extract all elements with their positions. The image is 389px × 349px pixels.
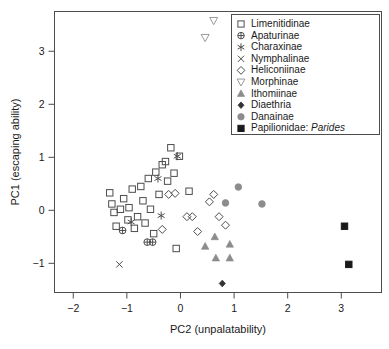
legend-item-label: Morphinae (251, 76, 299, 87)
legend-item-label: Papilionidae: Parides (251, 122, 345, 133)
legend[interactable]: LimenitidinaeApaturinaeCharaxinaeNymphal… (232, 15, 380, 135)
marker-filled-circle (235, 184, 242, 191)
legend-item-label: Apaturinae (251, 30, 300, 41)
y-tick-label: 2 (39, 98, 45, 110)
legend-item-label: Charaxinae (251, 41, 303, 52)
marker-filled-square (341, 223, 347, 229)
marker-circle-plus (149, 239, 156, 246)
marker-circle-plus (119, 227, 126, 234)
x-tick-label: −2 (67, 302, 79, 314)
marker-filled-circle (259, 201, 266, 208)
x-tick-label: −1 (121, 302, 133, 314)
y-tick-label: −1 (33, 257, 45, 269)
x-tick-label: 3 (338, 302, 344, 314)
x-axis-label: PC2 (unpalatability) (170, 323, 266, 335)
x-tick-label: 0 (178, 302, 184, 314)
y-tick-label: 3 (39, 45, 45, 57)
legend-item-label: Danainae (251, 111, 294, 122)
x-tick-label: 1 (231, 302, 237, 314)
marker-filled-circle (238, 114, 245, 121)
y-axis-label: PC1 (escaping ability) (9, 99, 21, 206)
marker-filled-square (238, 125, 244, 131)
marker-filled-circle (222, 200, 229, 207)
marker-circle-plus (238, 32, 245, 39)
marker-filled-square (346, 261, 352, 267)
legend-item-label: Heliconiinae (251, 64, 306, 75)
y-tick-label: 0 (39, 204, 45, 216)
plot-canvas: −2−10123 −10123 PC2 (unpalatability) PC1… (0, 0, 389, 349)
x-tick-label: 2 (285, 302, 291, 314)
legend-item-label: Diaethria (251, 99, 291, 110)
y-tick-label: 1 (39, 151, 45, 163)
legend-item-label: Limenitidinae (251, 18, 310, 29)
legend-item-label: Ithomiinae (251, 88, 298, 99)
legend-item-papilionidae[interactable]: Papilionidae: Parides (238, 122, 345, 133)
scatter-plot-figure: −2−10123 −10123 PC2 (unpalatability) PC1… (0, 0, 389, 349)
legend-item-label-italic: Parides (311, 122, 345, 133)
legend-item-label: Nymphalinae (251, 53, 310, 64)
